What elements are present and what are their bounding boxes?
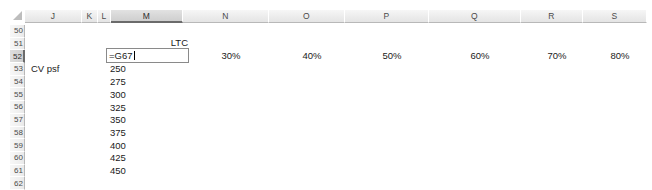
column-header-k[interactable]: K <box>82 10 98 23</box>
column-header-o[interactable]: O <box>269 10 345 23</box>
column-header-l[interactable]: L <box>98 10 111 23</box>
column-header-j[interactable]: J <box>25 10 82 23</box>
cell-M56-value[interactable]: 325 <box>110 102 140 115</box>
row-header-58[interactable]: 58 <box>10 127 25 140</box>
column-header-r[interactable]: R <box>521 10 583 23</box>
cell-S52-percent[interactable]: 80% <box>592 50 648 63</box>
cell-N52-percent[interactable]: 30% <box>196 50 266 63</box>
row-header-60[interactable]: 60 <box>10 152 25 165</box>
column-header-n[interactable]: N <box>183 10 269 23</box>
active-cell-editor[interactable]: =G67 <box>106 48 189 63</box>
active-cell-formula-text: =G67 <box>109 50 133 62</box>
row-header-61[interactable]: 61 <box>10 165 25 178</box>
row-header-52[interactable]: 52 <box>10 50 25 63</box>
spreadsheet-grid[interactable]: JKLMNOPQRS 50515253545556575859606162 LT… <box>0 0 652 190</box>
column-header-s[interactable]: S <box>583 10 647 23</box>
cell-R52-percent[interactable]: 70% <box>530 50 584 63</box>
row-header-51[interactable]: 51 <box>10 38 25 51</box>
select-all-triangle-icon <box>13 11 22 20</box>
cell-Q52-percent[interactable]: 60% <box>440 50 520 63</box>
row-header-column[interactable]: 50515253545556575859606162 <box>10 25 25 190</box>
cell-M61-value[interactable]: 450 <box>110 165 140 178</box>
cell-M55-value[interactable]: 300 <box>110 89 140 102</box>
cell-O52-percent[interactable]: 40% <box>280 50 344 63</box>
cell-M59-value[interactable]: 400 <box>110 140 140 153</box>
row-header-54[interactable]: 54 <box>10 76 25 89</box>
column-header-m[interactable]: M <box>111 10 183 23</box>
column-header-p[interactable]: P <box>345 10 429 23</box>
column-header-q[interactable]: Q <box>429 10 521 23</box>
row-header-59[interactable]: 59 <box>10 139 25 152</box>
cell-J53-cv-psf-label[interactable]: CV psf <box>31 63 87 76</box>
row-header-56[interactable]: 56 <box>10 101 25 114</box>
text-cursor-caret <box>134 51 135 60</box>
cell-M54-value[interactable]: 275 <box>110 76 140 89</box>
cell-M60-value[interactable]: 425 <box>110 152 140 165</box>
cell-M58-value[interactable]: 375 <box>110 127 140 140</box>
column-header-row[interactable]: JKLMNOPQRS <box>25 10 652 23</box>
row-header-53[interactable]: 53 <box>10 63 25 76</box>
row-header-55[interactable]: 55 <box>10 88 25 101</box>
cell-P52-percent[interactable]: 50% <box>356 50 428 63</box>
cell-M57-value[interactable]: 350 <box>110 114 140 127</box>
row-header-62[interactable]: 62 <box>10 177 25 190</box>
cell-M53-value[interactable]: 250 <box>110 63 140 76</box>
row-header-57[interactable]: 57 <box>10 114 25 127</box>
row-header-50[interactable]: 50 <box>10 25 25 38</box>
